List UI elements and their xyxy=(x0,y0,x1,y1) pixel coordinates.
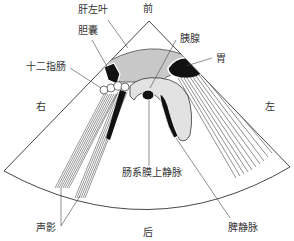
superior-mesenteric-vein-shape xyxy=(142,90,154,100)
label-splenic-vein: 脾静脉 xyxy=(228,221,258,233)
label-gallbladder: 胆囊 xyxy=(78,24,98,36)
label-pancreas: 胰腺 xyxy=(180,32,200,44)
label-anterior: 前 xyxy=(143,2,153,14)
label-stomach: 胃 xyxy=(216,53,226,64)
label-posterior: 后 xyxy=(143,227,153,238)
label-superior-mesenteric-vein: 肠系膜上静脉 xyxy=(122,166,182,178)
label-duodenum: 十二指肠 xyxy=(26,60,66,72)
label-left: 左 xyxy=(265,100,275,112)
label-acoustic-shadow: 声影 xyxy=(36,221,56,233)
label-liver-left-lobe: 肝左叶 xyxy=(78,3,108,15)
ultrasound-diagram: 前 后 右 左 肝左叶 胆囊 十二指肠 胰腺 胃 肠系膜上静脉 脾静脉 声影 xyxy=(0,0,294,241)
label-right: 右 xyxy=(36,100,46,112)
